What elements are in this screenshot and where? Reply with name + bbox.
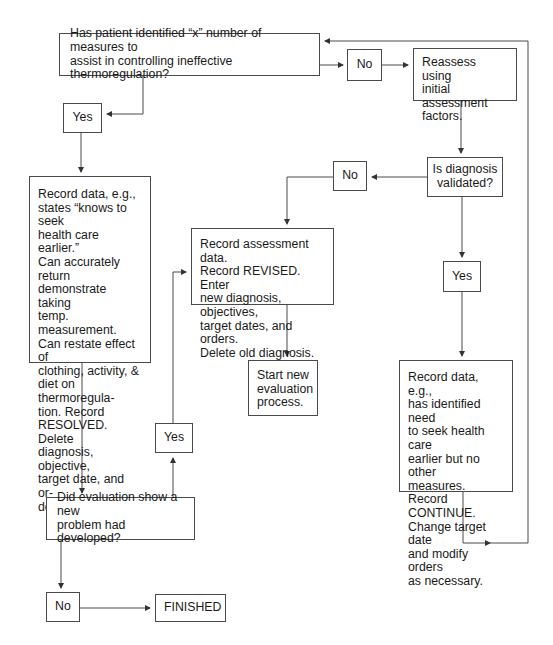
question-new-problem: Did evaluation show a new problem had de… — [46, 497, 195, 540]
answer-yes-left: Yes — [63, 103, 102, 133]
start-new-evaluation-box: Start new evaluation process. — [248, 360, 318, 416]
answer-no-mid: No — [333, 161, 367, 191]
finished-box: FINISHED — [155, 594, 226, 622]
answer-no-top: No — [347, 49, 382, 81]
record-resolved-box: Record data, e.g., states “knows to seek… — [29, 176, 151, 363]
question-diagnosis-validated: Is diagnosis validated? — [427, 157, 503, 197]
answer-no-bottom: No — [46, 592, 80, 622]
reassess-box: Reassess using initial assessment factor… — [413, 48, 517, 101]
answer-yes-right: Yes — [443, 261, 481, 292]
question-measures-identified: Has patient identified “x” number of mea… — [59, 33, 320, 76]
answer-yes-bottom: Yes — [155, 423, 193, 453]
record-continue-box: Record data, e.g., has identified need t… — [399, 360, 513, 492]
record-revised-box: Record assessment data. Record REVISED. … — [191, 228, 334, 305]
flowchart-canvas: Has patient identified “x” number of mea… — [0, 0, 553, 645]
